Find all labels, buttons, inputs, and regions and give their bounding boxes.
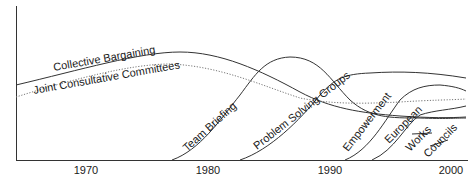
- management-practices-chart: Collective Bargaining Joint Consultative…: [0, 0, 476, 187]
- label-problem-solving-groups: Problem Solving Groups: [251, 68, 353, 151]
- x-tick-2000: 2000: [439, 164, 463, 176]
- x-tick-1970: 1970: [74, 164, 98, 176]
- x-tick-1990: 1990: [318, 164, 342, 176]
- label-team-briefing: Team Briefing: [180, 100, 238, 154]
- x-tick-1980: 1980: [196, 164, 220, 176]
